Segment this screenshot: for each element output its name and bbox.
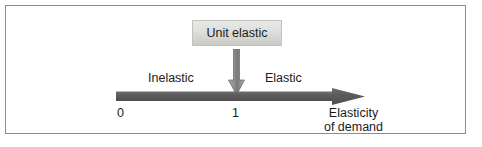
tick-label-one: 1: [232, 107, 239, 120]
figure-frame: Unit elastic: [5, 5, 466, 134]
tick-label-zero: 0: [117, 107, 124, 120]
region-label-elastic: Elastic: [265, 72, 302, 85]
axis-title: Elasticity of demand: [306, 106, 401, 134]
unit-elastic-callout: Unit elastic: [192, 20, 282, 46]
unit-elastic-label: Unit elastic: [206, 27, 267, 40]
right-arrow-icon: [116, 88, 366, 105]
region-label-inelastic: Inelastic: [148, 72, 194, 85]
elasticity-diagram: Unit elastic: [0, 0, 482, 147]
axis-title-line-1: Elasticity: [306, 106, 401, 120]
axis-title-line-2: of demand: [306, 120, 401, 134]
